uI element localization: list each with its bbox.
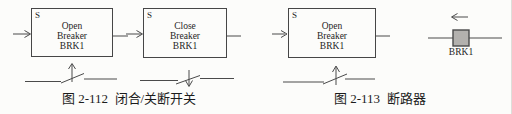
breaker-square: [453, 30, 469, 46]
block-title: Open Breaker BRK1: [289, 21, 375, 51]
open-switch-symbol: [25, 64, 117, 84]
close-breaker-block: S Close Breaker BRK1: [143, 8, 227, 58]
open-breaker-block-2: S Open Breaker BRK1: [288, 8, 376, 58]
open-switch-symbol: [283, 66, 375, 85]
block-title-line: Close: [144, 21, 226, 31]
figure-112-caption: 图 2-112 闭合/关断开关: [62, 92, 196, 106]
block-title-line: Breaker: [32, 31, 112, 41]
block-title-line: BRK1: [32, 41, 112, 51]
port-label-s: S: [147, 10, 152, 20]
breaker-symbol-label: BRK1: [445, 47, 477, 57]
input-arrow-icon: [126, 31, 143, 38]
close-switch-symbol: [140, 70, 234, 87]
block-title-line: Open: [32, 21, 112, 31]
block-title-line: Breaker: [289, 31, 375, 41]
port-label-s: S: [35, 10, 40, 20]
block-title-line: BRK1: [289, 41, 375, 51]
block-title-line: Open: [289, 21, 375, 31]
open-breaker-block-1: S Open Breaker BRK1: [31, 8, 113, 57]
block-title-line: BRK1: [144, 41, 226, 51]
figure-113-caption: 图 2-113 断路器: [334, 92, 426, 106]
figure-panel: S Open Breaker BRK1 S Close Breaker BRK1…: [0, 0, 512, 114]
input-arrow-icon: [13, 31, 31, 38]
input-arrow-icon: [272, 31, 287, 38]
port-label-s: S: [292, 10, 297, 20]
left-arrow-icon: [452, 14, 469, 21]
breaker-element-symbol: [428, 14, 502, 47]
block-title: Open Breaker BRK1: [32, 21, 112, 51]
block-title: Close Breaker BRK1: [144, 21, 226, 51]
block-title-line: Breaker: [144, 31, 226, 41]
